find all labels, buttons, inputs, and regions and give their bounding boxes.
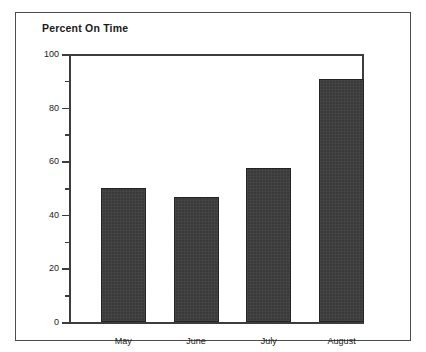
y-tick-major [62,322,69,324]
x-tick-label: June [186,336,206,346]
x-tick-label: August [328,336,356,346]
y-tick-major [62,54,69,56]
plot-area: 020406080100 MayJuneJulyAugust [69,54,364,324]
y-tick-label: 0 [54,317,59,327]
chart-title: Percent On Time [42,22,128,34]
chart-figure: Percent On Time 020406080100 MayJuneJuly… [15,12,411,341]
bar-may [101,188,146,322]
y-tick-label: 60 [49,156,59,166]
bar-august [319,79,364,322]
y-tick-major [62,215,69,217]
bar-june [174,197,219,322]
x-tick-label: May [115,336,132,346]
y-tick-label: 80 [49,103,59,113]
y-tick-label: 40 [49,210,59,220]
y-tick-label: 20 [49,263,59,273]
y-tick-major [62,161,69,163]
y-tick-label: 100 [44,49,59,59]
y-tick-major [62,108,69,110]
y-tick-major [62,268,69,270]
bar-july [246,168,291,322]
x-tick-label: July [261,336,277,346]
bar-series [69,54,364,324]
